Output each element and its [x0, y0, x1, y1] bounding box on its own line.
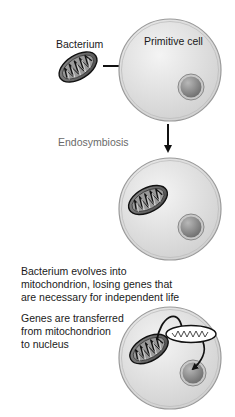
endosymbiosis-label: Endosymbiosis: [58, 136, 129, 149]
step-3-line: are necessary for independent life: [21, 291, 179, 304]
step-3-line: Bacterium evolves into: [21, 265, 179, 278]
step-4-description: Genes are transferred from mitochondrion…: [21, 312, 124, 352]
step-4-line: to nucleus: [21, 338, 124, 351]
stage-2: [119, 158, 221, 260]
step-3-line: mitochondrion, losing genes that: [21, 278, 179, 291]
stage-3: [119, 307, 221, 409]
bacterium-icon: [54, 46, 102, 89]
step-3-description: Bacterium evolves into mitochondrion, lo…: [21, 265, 179, 305]
nucleus-icon: [178, 214, 204, 240]
dna-oval-icon: [166, 326, 216, 343]
primitive-cell-label: Primitive cell: [144, 35, 203, 48]
bacterium-label: Bacterium: [56, 38, 103, 51]
nucleus-icon: [180, 360, 206, 386]
nucleus-icon: [178, 74, 204, 100]
endosymbiosis-diagram: Bacterium Primitive cell Endosymbiosis B…: [0, 0, 235, 417]
step-4-line: from mitochondrion: [21, 325, 124, 338]
step-4-line: Genes are transferred: [21, 312, 124, 325]
diagram-graphics: [0, 0, 235, 417]
